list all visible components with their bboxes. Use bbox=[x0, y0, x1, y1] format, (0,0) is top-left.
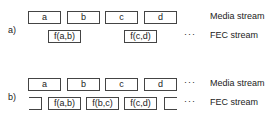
fec-packet-fcd: f(c,d) bbox=[124, 97, 157, 110]
fec-ellipsis: ··· bbox=[184, 96, 196, 107]
media-packet-c: c bbox=[105, 11, 138, 24]
media-packet-b: b bbox=[67, 11, 100, 24]
fec-ellipsis: ··· bbox=[184, 29, 196, 40]
media-packet-a: a bbox=[28, 11, 61, 24]
media-stream-label: Media stream bbox=[210, 78, 265, 89]
media-packet-d: d bbox=[144, 78, 177, 91]
media-packet-a: a bbox=[28, 78, 61, 91]
media-packet-d: d bbox=[144, 11, 177, 24]
fec-packet-partial-left bbox=[29, 97, 42, 110]
media-stream-label: Media stream bbox=[210, 11, 265, 22]
fec-packet-partial-right bbox=[164, 97, 177, 110]
fec-packet-fcd: f(c,d) bbox=[124, 30, 157, 43]
fec-stream-label: FEC stream bbox=[210, 30, 258, 41]
part-a-label: a) bbox=[8, 25, 16, 36]
fec-packet-fab: f(a,b) bbox=[48, 97, 81, 110]
media-packet-c: c bbox=[105, 78, 138, 91]
fec-packet-fbc: f(b,c) bbox=[86, 97, 119, 110]
media-packet-b: b bbox=[67, 78, 100, 91]
part-b-label: b) bbox=[8, 92, 16, 103]
fec-packet-fab: f(a,b) bbox=[48, 30, 81, 43]
fec-stream-label: FEC stream bbox=[210, 97, 258, 108]
media-ellipsis: ··· bbox=[184, 77, 196, 88]
